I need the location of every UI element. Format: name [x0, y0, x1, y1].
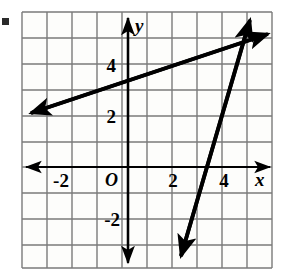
- coordinate-plane: y x O -2 2 4 4 2 -2: [0, 0, 284, 275]
- y-axis-label: y: [133, 15, 144, 36]
- x-tick-label-2: 2: [168, 170, 178, 191]
- x-tick-label-neg2: -2: [53, 170, 69, 191]
- x-tick-label-4: 4: [219, 170, 229, 191]
- y-tick-label-4: 4: [107, 55, 117, 76]
- origin-label: O: [105, 170, 118, 190]
- y-tick-label-neg2: -2: [104, 209, 120, 230]
- graph-figure: y x O -2 2 4 4 2 -2: [0, 0, 284, 275]
- x-axis-label: x: [254, 169, 265, 190]
- y-tick-label-2: 2: [107, 106, 117, 127]
